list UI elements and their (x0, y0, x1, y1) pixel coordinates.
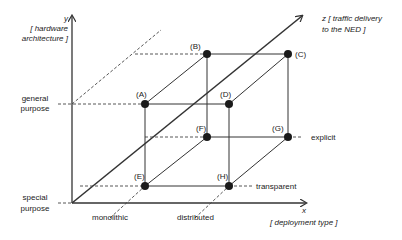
z-tick-transparent: transparent (256, 182, 296, 191)
z-axis-title-line1: z [ traffic delivery (322, 14, 382, 23)
point-F (203, 133, 211, 141)
cube-points (141, 50, 292, 190)
x-tick-distributed: distributed (177, 213, 214, 222)
y-tick-special-line2: purpose (10, 204, 60, 213)
y-axis-title-line2: architecture ] (0, 34, 68, 43)
y-tick-special-line1: special (10, 193, 60, 202)
point-label-A: (A) (136, 90, 147, 99)
point-label-B: (B) (190, 42, 201, 51)
point-label-C: (C) (295, 50, 306, 59)
z-axis-title-line2: to the NED ] (322, 25, 366, 34)
x-axis-letter: x (302, 206, 306, 215)
x-tick-monolithic: monolithic (92, 213, 128, 222)
point-E (141, 182, 149, 190)
point-D (225, 100, 233, 108)
x-axis-title: [ deployment type ] (270, 218, 338, 227)
z-axis (72, 16, 302, 203)
point-A (141, 100, 149, 108)
point-C (284, 50, 292, 58)
point-H (225, 182, 233, 190)
cube-edges (145, 54, 288, 186)
point-label-H: (H) (217, 172, 228, 181)
point-label-G: (G) (272, 124, 284, 133)
point-B (203, 50, 211, 58)
y-axis-title-line1: [ hardware (0, 24, 68, 33)
y-tick-general-line2: purpose (10, 104, 60, 113)
point-label-E: (E) (134, 172, 145, 181)
point-label-D: (D) (220, 90, 231, 99)
y-axis-letter: y (50, 14, 68, 23)
y-tick-general-line1: general (10, 94, 60, 103)
point-G (284, 133, 292, 141)
z-tick-explicit: explicit (311, 133, 335, 142)
point-label-F: (F) (196, 124, 206, 133)
